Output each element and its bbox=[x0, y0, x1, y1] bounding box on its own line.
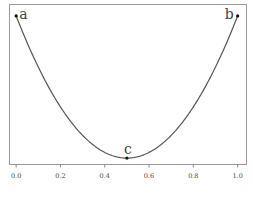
x-tick-label: 0.0 bbox=[11, 172, 21, 180]
point-a bbox=[15, 14, 18, 17]
x-tick-label: 1.0 bbox=[232, 172, 242, 180]
point-label-c: c bbox=[124, 141, 132, 157]
x-tick-label: 0.8 bbox=[188, 172, 198, 180]
x-tick-label: 0.4 bbox=[100, 172, 110, 180]
curve-line bbox=[16, 16, 238, 158]
x-tick-label: 0.2 bbox=[55, 172, 65, 180]
point-label-a: a bbox=[19, 6, 27, 22]
x-tick-label: 0.6 bbox=[144, 172, 154, 180]
point-label-b: b bbox=[225, 6, 234, 22]
chart: 0.00.20.40.60.81.0 abc bbox=[0, 0, 253, 197]
point-b bbox=[236, 14, 239, 17]
